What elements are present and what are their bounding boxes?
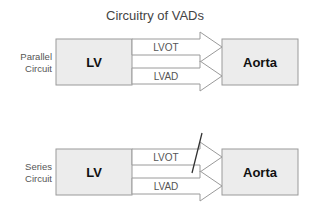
- lvot-label: LVOT: [153, 42, 178, 53]
- aorta-label: Aorta: [243, 165, 278, 180]
- vad-circuit-diagram: LV LVOT LVAD Aorta LV LVOT LVAD Aorta: [0, 0, 310, 215]
- lvot-label: LVOT: [153, 152, 178, 163]
- series-circuit: LV LVOT LVAD Aorta: [56, 133, 298, 201]
- aorta-label: Aorta: [243, 55, 278, 70]
- lvad-label: LVAD: [154, 181, 179, 192]
- parallel-circuit: LV LVOT LVAD Aorta: [56, 32, 298, 91]
- lv-label: LV: [86, 165, 102, 180]
- lv-label: LV: [86, 55, 102, 70]
- lvad-label: LVAD: [154, 71, 179, 82]
